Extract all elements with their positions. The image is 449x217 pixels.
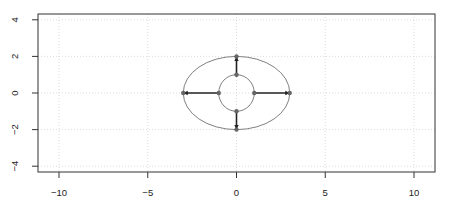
- y-tick-label: 0: [9, 90, 20, 95]
- grid-lines: [38, 14, 435, 172]
- x-tick-label: 10: [409, 187, 420, 198]
- chart: −10−50510 −4−2024: [0, 0, 449, 217]
- y-axis: −4−2024: [9, 17, 38, 171]
- data-point: [234, 127, 238, 131]
- data-point: [181, 91, 185, 95]
- data-point: [234, 54, 238, 58]
- y-tick-label: −2: [9, 124, 20, 135]
- x-axis: −10−50510: [51, 172, 419, 198]
- data-point: [234, 109, 238, 113]
- data-point: [288, 91, 292, 95]
- data-point: [217, 91, 221, 95]
- x-tick-label: 0: [234, 187, 239, 198]
- data-point: [252, 91, 256, 95]
- y-tick-label: 4: [9, 17, 20, 22]
- data-point: [234, 73, 238, 77]
- x-tick-label: 5: [323, 187, 328, 198]
- y-tick-label: 2: [9, 54, 20, 59]
- x-tick-label: −5: [142, 187, 153, 198]
- y-tick-label: −4: [9, 161, 20, 172]
- x-tick-label: −10: [51, 187, 67, 198]
